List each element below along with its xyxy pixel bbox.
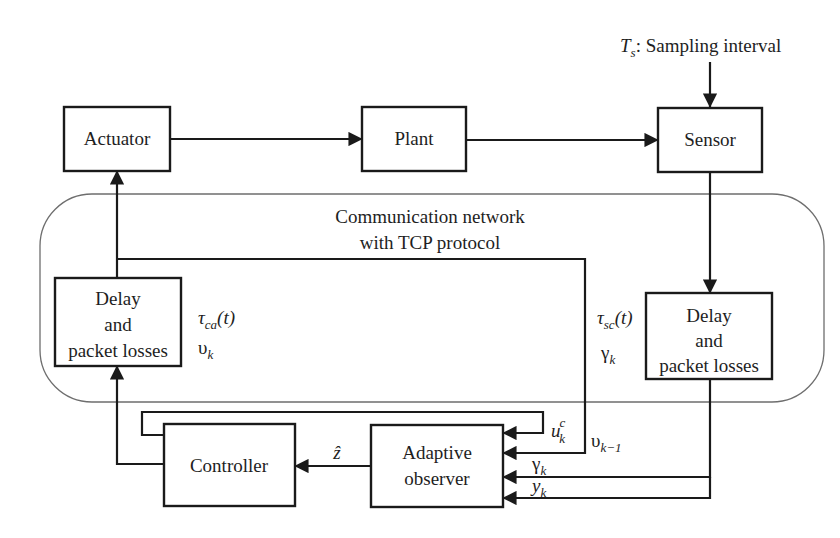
controller-label: Controller (190, 455, 269, 476)
network-title-line1: Communication network (335, 206, 525, 227)
sensor-label: Sensor (684, 129, 736, 150)
delay-left-line3: packet losses (68, 340, 168, 361)
adaptive-observer-block: Adaptive observer (371, 425, 503, 507)
networked-control-diagram: Communication network with TCP protocol … (0, 0, 840, 538)
z-hat-label: ẑ (332, 442, 341, 463)
upsilon-km1-label: υk−1 (591, 430, 621, 455)
u-k-c-label: uck (551, 415, 566, 446)
observer-line1: Adaptive (402, 442, 472, 463)
sensor-block: Sensor (658, 108, 762, 172)
sampling-text: : Sampling interval (636, 35, 782, 56)
gamma-k-right-label: γk (600, 342, 615, 367)
controller-block: Controller (164, 424, 295, 506)
delay-right-line1: Delay (686, 305, 732, 326)
delay-left-block: Delay and packet losses (55, 278, 181, 366)
controller-to-delay-wire (117, 366, 164, 464)
y-k-obs-label: yk (530, 475, 546, 500)
tau-ca-label: τca(t) (198, 307, 235, 332)
actuator-label: Actuator (84, 128, 151, 149)
sampling-interval-label: Ts: Sampling interval (620, 35, 781, 60)
tau-sc-label: τsc(t) (597, 307, 633, 332)
upsilon-k-label: υk (198, 337, 213, 362)
observer-line2: observer (404, 468, 470, 489)
plant-label: Plant (394, 128, 434, 149)
delay-left-line2: and (104, 314, 132, 335)
actuator-block: Actuator (64, 107, 170, 171)
delay-left-line1: Delay (95, 288, 141, 309)
delay-right-block: Delay and packet losses (646, 293, 772, 379)
delay-right-line3: packet losses (659, 355, 759, 376)
network-title-line2: with TCP protocol (360, 232, 500, 253)
plant-block: Plant (362, 107, 466, 171)
delay-right-line2: and (695, 330, 723, 351)
